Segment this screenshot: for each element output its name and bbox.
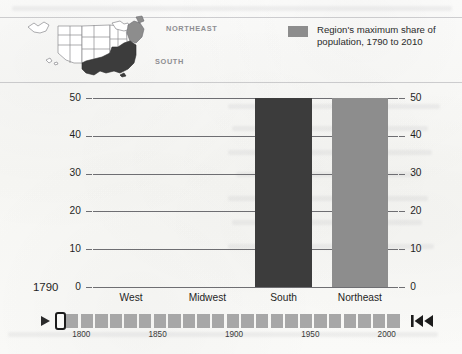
y-axis-tick-left (86, 136, 92, 137)
skip-to-start-icon[interactable] (411, 314, 434, 328)
timeline-segment[interactable] (124, 314, 136, 328)
y-axis-tick-left (86, 98, 92, 99)
map-label-south: SOUTH (155, 57, 184, 66)
timeline-segment[interactable] (241, 314, 253, 328)
bar-chart: 0010102020303040405050WestMidwestSouthNo… (0, 88, 462, 298)
y-axis-tick-right (399, 136, 405, 137)
timeline-track[interactable] (66, 314, 402, 328)
y-axis-tick-right (399, 174, 405, 175)
y-axis-label-right: 40 (410, 130, 421, 140)
legend-divider (0, 82, 462, 83)
timeline-segment[interactable] (256, 314, 268, 328)
timeline-segment[interactable] (212, 314, 224, 328)
y-axis-label-right: 50 (410, 93, 421, 103)
y-axis-tick-left (86, 287, 92, 288)
timeline-segment[interactable] (154, 314, 166, 328)
y-axis-label-left: 0 (75, 282, 81, 292)
timeline-segment[interactable] (66, 314, 78, 328)
timeline-segment[interactable] (344, 314, 356, 328)
y-axis-label-right: 20 (410, 206, 421, 216)
y-axis-label-left: 40 (69, 130, 80, 140)
timeline-segment[interactable] (81, 314, 93, 328)
chart-page: NORTHEAST SOUTH Region's maximum share o… (0, 0, 462, 354)
play-icon[interactable] (41, 316, 50, 326)
category-label-west: West (93, 292, 169, 303)
timeline-tick-label: 2000 (378, 330, 396, 339)
timeline-segment[interactable] (285, 314, 297, 328)
plot-area: 0010102020303040405050WestMidwestSouthNo… (93, 98, 398, 287)
y-axis-label-right: 10 (410, 244, 421, 254)
timeline-segment[interactable] (314, 314, 326, 328)
timeline-segment[interactable] (139, 314, 151, 328)
y-axis-tick-right (399, 211, 405, 212)
timeline-segment[interactable] (168, 314, 180, 328)
timeline-segment[interactable] (387, 314, 399, 328)
gridline (93, 287, 398, 288)
timeline-tick-label: 1800 (72, 330, 90, 339)
timeline-segment[interactable] (197, 314, 209, 328)
category-label-northeast: Northeast (322, 292, 398, 303)
bar-northeast[interactable] (332, 98, 388, 287)
us-region-map (24, 13, 159, 79)
y-axis-label-left: 30 (69, 168, 80, 178)
y-axis-tick-right (399, 287, 405, 288)
y-axis-tick-left (86, 174, 92, 175)
timeline-tick-label: 1950 (301, 330, 319, 339)
bar-south[interactable] (255, 98, 311, 287)
chart-legend: Region's maximum share of population, 17… (288, 24, 462, 48)
y-axis-tick-left (86, 211, 92, 212)
timeline-tick-label: 1850 (149, 330, 167, 339)
timeline-tick-label: 1900 (225, 330, 243, 339)
paper-ghost-text (12, 6, 452, 11)
timeline-segment[interactable] (110, 314, 122, 328)
timeline-slider-handle[interactable] (55, 312, 66, 330)
y-axis-label-left: 50 (69, 93, 80, 103)
legend-label: Region's maximum share of population, 17… (317, 24, 462, 48)
timeline-segment[interactable] (329, 314, 341, 328)
timeline-segment[interactable] (227, 314, 239, 328)
timeline-segment[interactable] (300, 314, 312, 328)
y-axis-label-right: 30 (410, 168, 421, 178)
y-axis-tick-right (399, 98, 405, 99)
legend-color-swatch (288, 26, 308, 37)
timeline-segment[interactable] (373, 314, 385, 328)
timeline-control[interactable]: 18001850190019502000 (0, 305, 462, 354)
current-year-label: 1790 (33, 281, 58, 293)
category-label-south: South (246, 292, 322, 303)
timeline-segment[interactable] (95, 314, 107, 328)
y-axis-label-left: 20 (69, 206, 80, 216)
y-axis-tick-left (86, 249, 92, 250)
map-label-northeast: NORTHEAST (166, 24, 217, 33)
y-axis-label-left: 10 (69, 244, 80, 254)
timeline-segment[interactable] (271, 314, 283, 328)
y-axis-tick-right (399, 249, 405, 250)
y-axis-label-right: 0 (410, 282, 416, 292)
timeline-segment[interactable] (358, 314, 370, 328)
category-label-midwest: Midwest (169, 292, 245, 303)
timeline-segment[interactable] (183, 314, 195, 328)
